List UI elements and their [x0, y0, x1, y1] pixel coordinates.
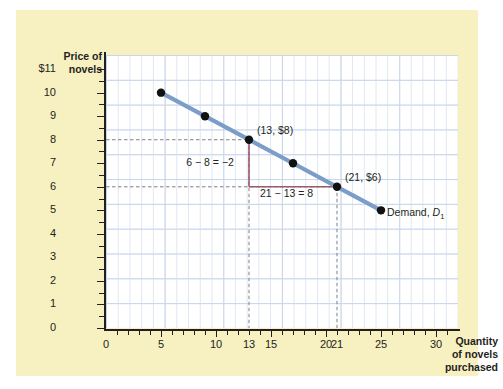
x-axis-minor-tick — [337, 331, 338, 335]
x-axis-minor-tick — [447, 331, 448, 335]
y-axis-tick-label: 4 — [16, 228, 56, 239]
y-axis-tick — [97, 163, 104, 164]
annotation-run: 21 − 13 = 8 — [260, 187, 313, 199]
annotation-point-13-8: (13, $8) — [257, 124, 293, 136]
x-axis-minor-tick — [425, 331, 426, 335]
y-axis-title-line1: Price of — [36, 50, 102, 63]
y-axis-tick-label: 10 — [16, 87, 56, 98]
y-axis-minor-tick — [99, 293, 104, 294]
demand-label-subscript: 1 — [440, 212, 444, 221]
x-axis-minor-tick — [315, 331, 316, 335]
x-axis-tick-label: 21 — [322, 339, 352, 350]
x-axis-minor-tick — [414, 331, 415, 335]
x-axis-minor-tick — [392, 331, 393, 335]
x-axis-tick — [326, 331, 327, 337]
y-axis-tick-label: 0 — [16, 322, 56, 333]
y-axis-tick — [97, 210, 104, 211]
x-axis-tick — [436, 331, 437, 337]
y-axis-tick — [97, 140, 104, 141]
y-axis-minor-tick — [99, 175, 104, 176]
x-axis-tick — [161, 331, 162, 337]
x-axis-minor-tick — [194, 331, 195, 335]
x-axis-minor-tick — [348, 331, 349, 335]
y-axis-tick — [97, 234, 104, 235]
y-axis-tick — [97, 281, 104, 282]
y-axis-minor-tick — [99, 222, 104, 223]
x-axis-minor-tick — [260, 331, 261, 335]
x-axis-minor-tick — [238, 331, 239, 335]
x-axis-minor-tick — [304, 331, 305, 335]
x-axis-tick — [271, 331, 272, 337]
y-axis-tick-label: 8 — [16, 134, 56, 145]
y-axis-minor-tick — [99, 199, 104, 200]
x-axis-minor-tick — [128, 331, 129, 335]
y-axis-minor-tick — [99, 151, 104, 152]
x-axis-tick-label: 30 — [421, 339, 451, 350]
x-axis-minor-tick — [227, 331, 228, 335]
figure-card: Price of novels Quantity of novels purch… — [16, 10, 478, 376]
x-axis-minor-tick — [117, 331, 118, 335]
y-axis-tick-label: 9 — [16, 110, 56, 121]
y-axis-tick-label: 7 — [16, 157, 56, 168]
y-axis-minor-tick — [99, 81, 104, 82]
y-axis-minor-tick — [99, 104, 104, 105]
x-axis-minor-tick — [139, 331, 140, 335]
y-axis-tick — [97, 304, 104, 305]
y-axis-tick — [97, 328, 104, 329]
y-axis-tick — [97, 93, 104, 94]
y-axis-tick-label: 2 — [16, 275, 56, 286]
x-axis-tick-label: 5 — [146, 339, 176, 350]
x-axis-title-line3: purchased — [414, 361, 498, 374]
x-axis-minor-tick — [403, 331, 404, 335]
x-axis-minor-tick — [172, 331, 173, 335]
y-axis-line — [104, 52, 106, 331]
annotation-point-21-6: (21, $6) — [345, 171, 381, 183]
x-axis-minor-tick — [370, 331, 371, 335]
annotation-demand-label: Demand, D1 — [387, 206, 444, 223]
x-axis-tick — [381, 331, 382, 337]
annotation-rise: 6 − 8 = −2 — [186, 156, 234, 168]
x-axis-tick — [216, 331, 217, 337]
x-axis-tick-label: 0 — [91, 339, 121, 350]
x-axis-minor-tick — [205, 331, 206, 335]
x-axis-tick-label: 15 — [256, 339, 286, 350]
demand-label-text: Demand, — [387, 206, 433, 218]
y-axis-tick — [97, 257, 104, 258]
x-axis-minor-tick — [293, 331, 294, 335]
x-axis-minor-tick — [282, 331, 283, 335]
y-axis-minor-tick — [99, 269, 104, 270]
y-axis-tick-label: 1 — [16, 298, 56, 309]
y-axis-tick-label: 3 — [16, 251, 56, 262]
x-axis-minor-tick — [150, 331, 151, 335]
y-axis-tick-label: 5 — [16, 204, 56, 215]
y-axis-tick — [97, 116, 104, 117]
demand-label-symbol: D — [433, 206, 441, 218]
x-axis-tick-label: 10 — [201, 339, 231, 350]
y-axis-minor-tick — [99, 246, 104, 247]
x-axis-minor-tick — [359, 331, 360, 335]
y-axis-minor-tick — [99, 128, 104, 129]
y-axis-tick — [97, 187, 104, 188]
y-axis-tick-label: $11 — [16, 63, 56, 74]
x-axis-minor-tick — [183, 331, 184, 335]
y-axis-tick-label: 6 — [16, 181, 56, 192]
y-axis-tick — [97, 69, 104, 70]
x-axis-minor-tick — [249, 331, 250, 335]
y-axis-minor-tick — [99, 316, 104, 317]
x-axis-tick-label: 25 — [366, 339, 396, 350]
